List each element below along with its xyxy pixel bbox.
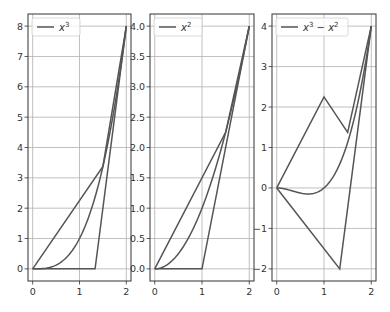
y-tick-label: −2	[253, 263, 267, 274]
y-tick-label: 2.5	[130, 112, 145, 123]
subplot-3: 012−2−101234x3 − x2	[253, 14, 376, 297]
subplot-2: 0120.00.51.01.52.02.53.03.54.0x2	[130, 14, 254, 297]
grid	[28, 14, 131, 281]
y-tick-label: 4.0	[130, 21, 145, 32]
x-tick-label: 1	[76, 286, 82, 297]
y-tick-label: 7	[17, 51, 23, 62]
y-tick-label: −1	[253, 223, 267, 234]
y-tick-label: 0	[261, 182, 267, 193]
legend: x3	[32, 18, 80, 36]
legend-label: x3 − x2	[302, 21, 339, 33]
y-tick-label: 6	[17, 81, 23, 92]
y-tick-label: 3.0	[130, 81, 145, 92]
y-tick-label: 2	[261, 102, 267, 113]
x-tick-label: 0	[30, 286, 36, 297]
x-tick-label: 2	[246, 286, 252, 297]
y-tick-label: 0	[17, 263, 23, 274]
x-tick-label: 1	[199, 286, 205, 297]
y-tick-label: 1	[261, 142, 267, 153]
y-tick-label: 0.0	[130, 263, 145, 274]
y-tick-label: 3	[17, 172, 23, 183]
y-tick-label: 1.0	[130, 203, 145, 214]
x-tick-label: 1	[321, 286, 327, 297]
legend: x3 − x2	[276, 18, 348, 36]
y-tick-label: 8	[17, 21, 23, 32]
grid	[272, 14, 376, 281]
figure: 012012345678x30120.00.51.01.52.02.53.03.…	[0, 0, 390, 312]
y-tick-label: 2.0	[130, 142, 145, 153]
grid	[150, 14, 254, 281]
x-tick-label: 0	[274, 286, 280, 297]
y-tick-label: 3.5	[130, 51, 145, 62]
legend: x2	[154, 18, 202, 36]
y-tick-label: 4	[261, 21, 267, 32]
subplot-1: 012012345678x3	[17, 14, 131, 297]
y-tick-label: 3	[261, 61, 267, 72]
y-tick-label: 1	[17, 233, 23, 244]
y-tick-label: 4	[17, 142, 23, 153]
y-tick-label: 1.5	[130, 172, 145, 183]
x-tick-label: 2	[123, 286, 129, 297]
y-tick-label: 2	[17, 203, 23, 214]
x-tick-label: 0	[152, 286, 158, 297]
y-tick-label: 5	[17, 112, 23, 123]
x-tick-label: 2	[368, 286, 374, 297]
y-tick-label: 0.5	[130, 233, 145, 244]
